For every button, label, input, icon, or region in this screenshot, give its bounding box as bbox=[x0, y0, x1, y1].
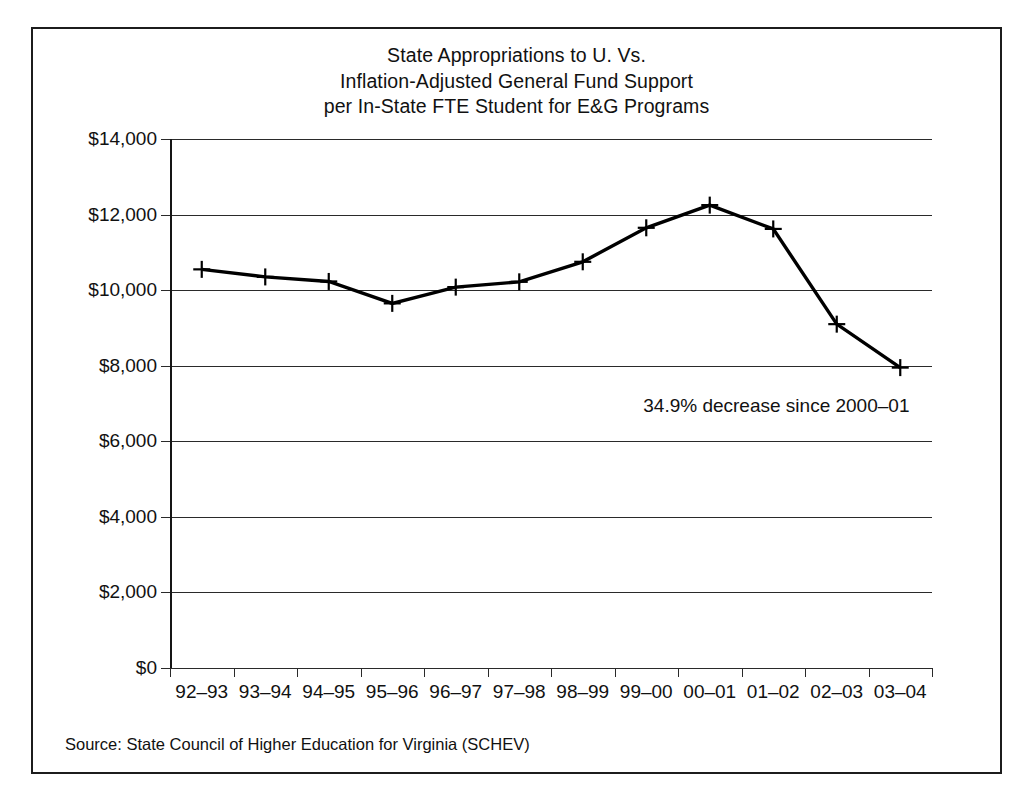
y-tick-mark bbox=[161, 139, 170, 140]
x-tick-mark bbox=[805, 668, 806, 677]
y-tick-label: $6,000 bbox=[99, 430, 157, 452]
x-tick-mark bbox=[488, 668, 489, 677]
x-tick-label: 93–94 bbox=[239, 681, 292, 703]
y-tick-mark bbox=[161, 366, 170, 367]
y-tick-label: $2,000 bbox=[99, 581, 157, 603]
y-tick-label: $4,000 bbox=[99, 506, 157, 528]
x-tick-label: 02–03 bbox=[810, 681, 863, 703]
x-tick-mark bbox=[234, 668, 235, 677]
y-tick-label: $8,000 bbox=[99, 355, 157, 377]
data-point-marker bbox=[447, 279, 464, 296]
decrease-annotation: 34.9% decrease since 2000–01 bbox=[643, 395, 909, 417]
y-tick-label: $14,000 bbox=[88, 128, 157, 150]
y-tick-mark bbox=[161, 592, 170, 593]
x-tick-label: 01–02 bbox=[747, 681, 800, 703]
data-point-marker bbox=[701, 197, 718, 214]
x-tick-mark bbox=[424, 668, 425, 677]
y-tick-mark bbox=[161, 441, 170, 442]
x-tick-label: 98–99 bbox=[556, 681, 609, 703]
data-point-marker bbox=[574, 253, 591, 270]
x-tick-label: 00–01 bbox=[683, 681, 736, 703]
chart-title-line-3: per In-State FTE Student for E&G Program… bbox=[33, 94, 1000, 120]
x-tick-label: 96–97 bbox=[429, 681, 482, 703]
data-point-marker bbox=[511, 273, 528, 290]
x-tick-mark bbox=[361, 668, 362, 677]
x-tick-mark bbox=[615, 668, 616, 677]
x-tick-mark bbox=[678, 668, 679, 677]
x-tick-mark bbox=[932, 668, 933, 677]
chart-title: State Appropriations to U. Vs. Inflation… bbox=[33, 43, 1000, 120]
y-tick-label: $10,000 bbox=[88, 279, 157, 301]
y-tick-mark bbox=[161, 215, 170, 216]
y-tick-mark bbox=[161, 668, 170, 669]
x-tick-label: 94–95 bbox=[302, 681, 355, 703]
x-tick-mark bbox=[170, 668, 171, 677]
x-tick-label: 97–98 bbox=[493, 681, 546, 703]
y-tick-mark bbox=[161, 290, 170, 291]
data-point-marker bbox=[257, 268, 274, 285]
data-point-marker bbox=[384, 295, 401, 312]
x-tick-label: 99–00 bbox=[620, 681, 673, 703]
x-tick-label: 03–04 bbox=[874, 681, 927, 703]
y-tick-label: $12,000 bbox=[88, 204, 157, 226]
figure-frame: State Appropriations to U. Vs. Inflation… bbox=[31, 27, 1002, 774]
x-tick-mark bbox=[869, 668, 870, 677]
figure-page: State Appropriations to U. Vs. Inflation… bbox=[0, 0, 1031, 801]
chart-title-line-1: State Appropriations to U. Vs. bbox=[33, 43, 1000, 69]
source-note: Source: State Council of Higher Educatio… bbox=[65, 735, 530, 754]
y-tick-label: $0 bbox=[136, 657, 157, 679]
plot-area: $0$2,000$4,000$6,000$8,000$10,000$12,000… bbox=[170, 139, 932, 668]
chart-title-line-2: Inflation-Adjusted General Fund Support bbox=[33, 69, 1000, 95]
y-tick-mark bbox=[161, 517, 170, 518]
series-line bbox=[202, 205, 901, 367]
x-tick-mark bbox=[551, 668, 552, 677]
data-point-marker bbox=[193, 261, 210, 278]
x-tick-label: 95–96 bbox=[366, 681, 419, 703]
x-tick-mark bbox=[297, 668, 298, 677]
x-tick-mark bbox=[742, 668, 743, 677]
data-point-marker bbox=[638, 219, 655, 236]
data-point-marker bbox=[320, 273, 337, 290]
x-tick-label: 92–93 bbox=[175, 681, 228, 703]
